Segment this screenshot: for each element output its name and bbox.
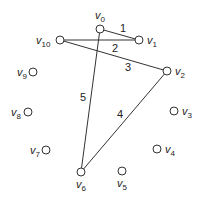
edge-label: 2 [112,42,118,54]
edge-labels-group: 12345 [80,22,131,120]
vertex-label: v5 [117,177,128,192]
vertex-label: v1 [147,34,158,49]
vertex-label: v4 [165,143,176,158]
vertex-label: v2 [175,65,186,80]
edge-label: 4 [117,108,123,120]
vertex-v6 [77,168,85,176]
graph-diagram: 12345 v0v1v2v3v4v5v6v7v8v9v10 [0,0,201,200]
vertex-v1 [135,36,143,44]
vertex-label: v10 [36,34,51,49]
vertex-v10 [56,36,64,44]
vertex-v4 [153,145,161,153]
vertex-label: v0 [95,9,106,24]
vertex-v7 [42,146,50,154]
vertex-v3 [170,107,178,115]
vertex-label: v6 [76,178,87,193]
vertex-v9 [29,68,37,76]
vertex-v0 [96,25,104,33]
vertex-label: v3 [182,105,193,120]
edge-label: 5 [80,91,86,103]
vertex-label: v7 [30,144,41,159]
vertex-v5 [118,167,126,175]
vertex-v8 [24,108,32,116]
vertex-label: v8 [11,106,22,121]
vertex-v2 [163,67,171,75]
edge-label: 1 [120,22,126,34]
edge-label: 3 [125,61,131,73]
node-labels-group: v0v1v2v3v4v5v6v7v8v9v10 [11,9,193,193]
vertex-label: v9 [17,66,28,81]
edge-v2-v6 [81,71,167,172]
